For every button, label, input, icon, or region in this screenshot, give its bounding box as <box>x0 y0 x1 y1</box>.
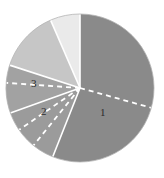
pie-chart-canvas <box>0 0 164 178</box>
pie-slice-label-2: 2 <box>41 106 47 117</box>
pie-slice-label-3: 3 <box>31 78 37 89</box>
pie-chart: 1 2 3 <box>0 0 164 178</box>
pie-slice-label-1: 1 <box>100 107 106 118</box>
